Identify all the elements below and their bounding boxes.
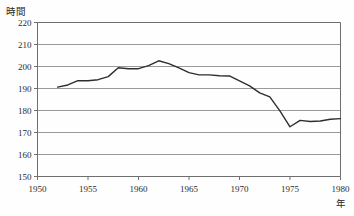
x-tick-label: 1955 <box>79 184 98 194</box>
y-tick-label: 190 <box>18 84 32 94</box>
plot-frame <box>38 23 341 177</box>
y-tick-label: 170 <box>18 128 32 138</box>
y-tick-labels-group: 150160170180190200210220 <box>18 18 32 182</box>
y-tick-label: 160 <box>18 150 32 160</box>
y-tick-label: 210 <box>18 40 32 50</box>
x-tick-label: 1950 <box>29 184 48 194</box>
x-tick-label: 1965 <box>180 184 199 194</box>
y-tick-label: 200 <box>18 62 32 72</box>
line-chart-plot: 150160170180190200210220 195019551960196… <box>0 0 354 216</box>
gridlines-group <box>38 23 341 155</box>
y-tick-label: 180 <box>18 106 32 116</box>
x-tick-marks-group <box>38 177 341 181</box>
data-line-series <box>58 61 341 127</box>
y-tick-label: 220 <box>18 18 32 28</box>
x-tick-labels-group: 1950195519601965197019751980 <box>29 184 351 194</box>
x-tick-label: 1970 <box>231 184 250 194</box>
x-tick-label: 1980 <box>332 184 351 194</box>
y-tick-label: 150 <box>18 172 32 182</box>
x-tick-label: 1960 <box>130 184 149 194</box>
data-series-group <box>58 61 341 127</box>
x-tick-label: 1975 <box>281 184 300 194</box>
chart-figure: 時間 年 150160170180190200210220 1950195519… <box>0 0 354 216</box>
y-tick-marks-group <box>34 23 38 177</box>
